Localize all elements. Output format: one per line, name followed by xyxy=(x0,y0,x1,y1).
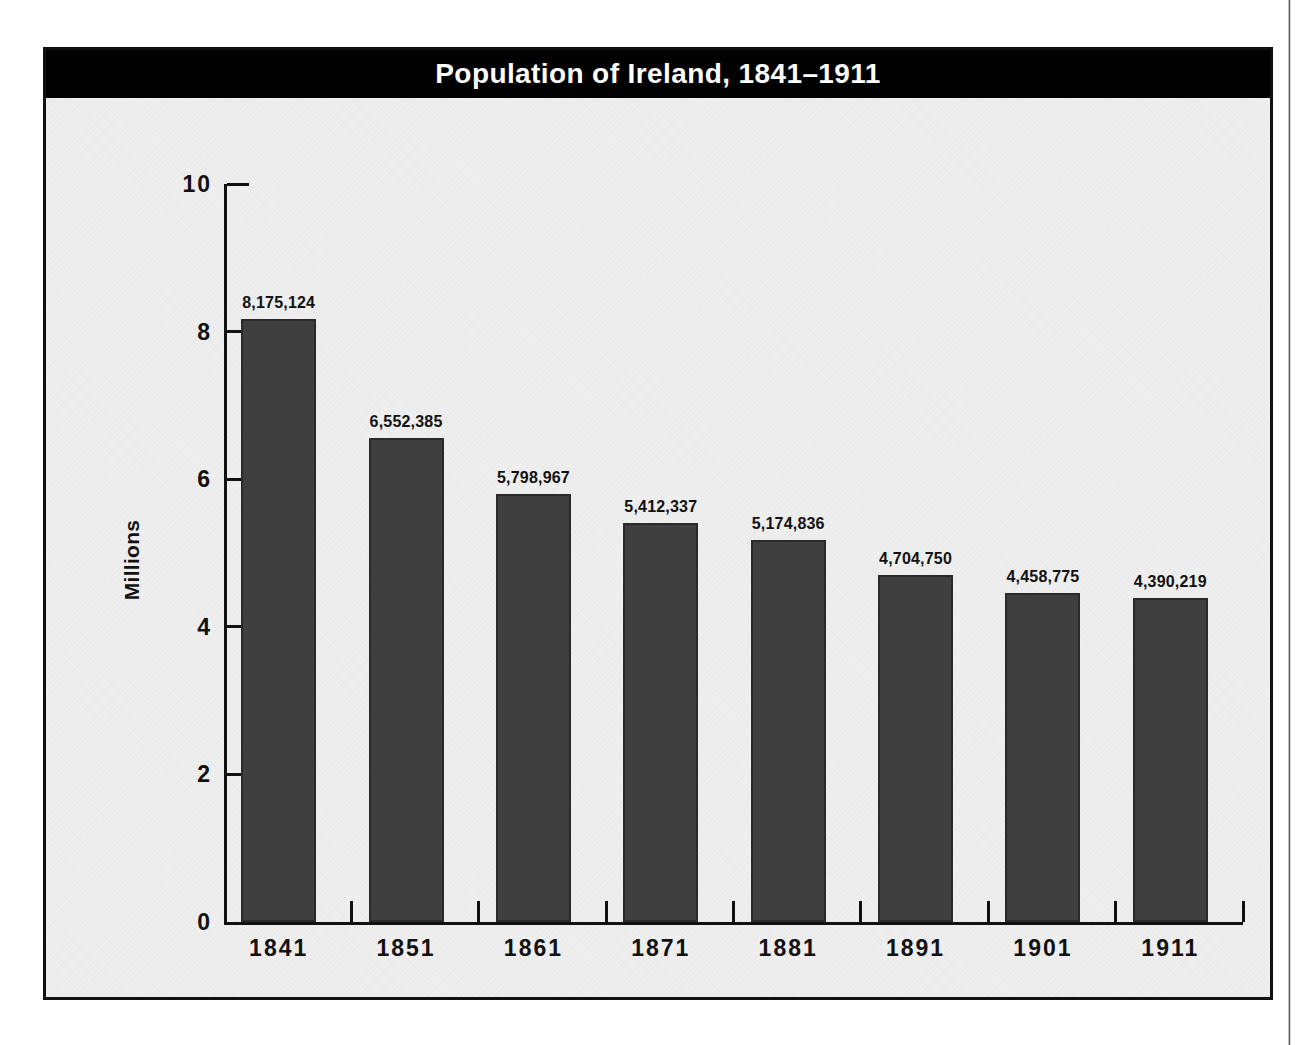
bar-value-label: 5,174,836 xyxy=(752,515,825,533)
y-axis-title: Millions xyxy=(120,520,144,601)
y-axis-tick-label: 4 xyxy=(172,613,212,640)
x-axis-category-label: 1911 xyxy=(1141,935,1199,962)
bar xyxy=(1133,598,1208,922)
x-axis-tick xyxy=(987,901,990,922)
x-axis-tick xyxy=(1242,901,1245,922)
y-axis-tick-label: 8 xyxy=(172,318,212,345)
bar xyxy=(241,319,316,922)
bar xyxy=(623,523,698,922)
x-axis-category-label: 1841 xyxy=(249,935,308,962)
x-axis-category-label: 1861 xyxy=(504,935,563,962)
y-axis-tick xyxy=(227,183,249,186)
y-axis-tick-label: 2 xyxy=(172,761,212,788)
bar-value-label: 6,552,385 xyxy=(370,413,443,431)
x-axis-tick xyxy=(605,901,608,922)
plot-area: Millions 0246810 8,175,12418416,552,3851… xyxy=(184,165,1204,955)
x-axis-category-label: 1881 xyxy=(759,935,818,962)
chart-title-banner: Population of Ireland, 1841–1911 xyxy=(46,50,1270,98)
bar xyxy=(1005,593,1080,922)
bar-value-label: 5,412,337 xyxy=(624,498,697,516)
bar xyxy=(369,438,444,922)
x-axis-category-label: 1891 xyxy=(886,935,945,962)
bar-value-label: 4,458,775 xyxy=(1006,568,1079,586)
bar xyxy=(496,494,571,922)
bar-value-label: 4,390,219 xyxy=(1134,573,1207,591)
y-axis-tick-label: 6 xyxy=(172,466,212,493)
y-axis-tick-label: 0 xyxy=(172,909,212,936)
page-title: Population of Ireland, 1841–1911 xyxy=(435,58,880,90)
page-edge-rule xyxy=(1288,0,1291,1045)
y-axis-tick-label: 10 xyxy=(172,171,212,198)
y-axis-line xyxy=(224,184,227,924)
bar xyxy=(751,540,826,922)
bar-value-label: 4,704,750 xyxy=(879,550,952,568)
x-axis-line xyxy=(224,922,1243,925)
x-axis-category-label: 1871 xyxy=(631,935,690,962)
x-axis-category-label: 1851 xyxy=(376,935,435,962)
bar-value-label: 5,798,967 xyxy=(497,469,570,487)
x-axis-tick xyxy=(350,901,353,922)
x-axis-category-label: 1901 xyxy=(1013,935,1072,962)
x-axis-tick xyxy=(1114,901,1117,922)
chart-figure: Population of Ireland, 1841–1911 Million… xyxy=(43,47,1273,1000)
x-axis-tick xyxy=(859,901,862,922)
bar-value-label: 8,175,124 xyxy=(242,294,315,312)
bar xyxy=(878,575,953,922)
x-axis-tick xyxy=(477,901,480,922)
x-axis-tick xyxy=(732,901,735,922)
